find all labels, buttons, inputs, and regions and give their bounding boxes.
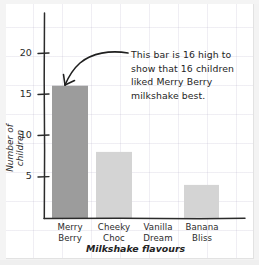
annotation-line-3: liked Merry Berry bbox=[131, 75, 247, 89]
annotation-line-2: show that 16 children bbox=[131, 62, 247, 76]
y-tick-label-15: 15 bbox=[10, 88, 32, 99]
bar-merry-berry bbox=[52, 86, 88, 218]
y-tick-20 bbox=[38, 53, 49, 54]
x-category-line-1: Banana bbox=[175, 222, 229, 233]
x-axis-label: Milkshake flavours bbox=[58, 243, 213, 254]
y-tick-label-20: 20 bbox=[10, 47, 32, 58]
annotation-callout-text: This bar is 16 high to show that 16 chil… bbox=[131, 48, 247, 102]
x-category-line-2: Bliss bbox=[175, 233, 229, 244]
x-category-banana-bliss: Banana Bliss bbox=[175, 222, 229, 243]
y-tick-15 bbox=[38, 94, 49, 95]
y-tick-10 bbox=[38, 135, 49, 136]
callout-arrow bbox=[64, 52, 129, 85]
bar-banana-bliss bbox=[184, 185, 219, 218]
annotation-line-4: milkshake best. bbox=[131, 89, 247, 103]
x-axis-line bbox=[44, 218, 245, 219]
plot-area: 20 15 10 5 Number of children Merry Berr… bbox=[0, 0, 259, 265]
bar-cheeky-choc bbox=[96, 152, 132, 218]
bars-group bbox=[52, 86, 219, 218]
bar-chart-figure: 20 15 10 5 Number of children Merry Berr… bbox=[0, 0, 259, 265]
annotation-line-1: This bar is 16 high to bbox=[131, 48, 247, 62]
y-axis-label: Number of children bbox=[5, 106, 25, 190]
